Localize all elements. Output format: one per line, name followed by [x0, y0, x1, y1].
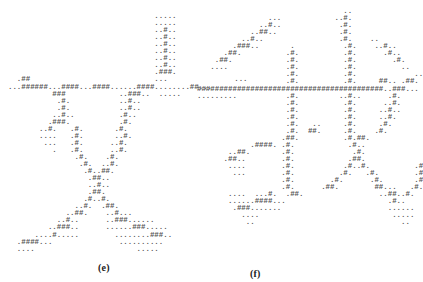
- panel-caption-e: (e): [98, 262, 110, 273]
- figure-panel-e: ..... ..... ..#.. ..#.. ..#.. ..#..: [0, 0, 174, 282]
- ascii-glyph-wo: .. ... ..#. ..#.. .#. ..##.. .#. ..#.. .…: [197, 8, 423, 226]
- glyph-row: .. ..: [197, 219, 423, 226]
- figure-panel-f: .. ... ..#. ..#.. .#. ..##.. .#. ..#.. .…: [174, 0, 348, 282]
- panel-caption-f: (f): [250, 268, 261, 279]
